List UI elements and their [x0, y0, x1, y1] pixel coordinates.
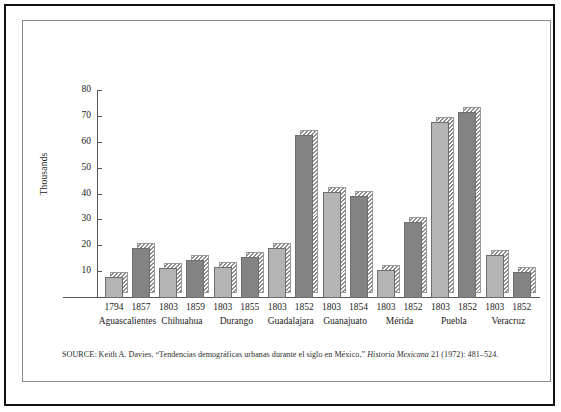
bar-face [350, 196, 368, 298]
bar [132, 248, 150, 298]
bar-face [404, 222, 422, 298]
bars-layer [23, 21, 552, 383]
source-journal: Historia Mexicana [367, 350, 429, 359]
bar [513, 272, 531, 298]
bar-face [513, 272, 531, 298]
bar-face [132, 248, 150, 298]
source-note: SOURCE: Keith A. Davies, “Tendencias dem… [62, 350, 532, 361]
figure-inner-frame: Thousands 1020304050607080 17941857Aguas… [22, 20, 551, 382]
bar-face [105, 277, 123, 298]
bar [159, 268, 177, 298]
bar-face [241, 257, 259, 298]
bar [458, 112, 476, 298]
bar-face [186, 260, 204, 298]
x-year-label: 1852 [505, 302, 539, 312]
bar [323, 192, 341, 298]
bar-face [377, 270, 395, 298]
bar-face [268, 248, 286, 298]
bar-face [486, 255, 504, 298]
bar [350, 196, 368, 298]
x-city-label: Veracruz [458, 316, 559, 326]
bar [295, 135, 313, 298]
bar [268, 248, 286, 298]
bar [377, 270, 395, 298]
bar [186, 260, 204, 298]
bar-face [295, 135, 313, 298]
bar [404, 222, 422, 298]
figure-outer-frame: Thousands 1020304050607080 17941857Aguas… [4, 4, 555, 406]
bar [105, 277, 123, 298]
bar-face [214, 267, 232, 298]
bar [486, 255, 504, 298]
bar-face [458, 112, 476, 298]
bar-face [431, 122, 449, 298]
source-suffix: 21 (1972): 481–524. [429, 350, 498, 359]
source-prefix: SOURCE: Keith A. Davies, “Tendencias dem… [62, 350, 367, 359]
bar-chart: Thousands 1020304050607080 17941857Aguas… [23, 21, 552, 383]
bar [241, 257, 259, 298]
bar-face [159, 268, 177, 298]
bar [431, 122, 449, 298]
bar-face [323, 192, 341, 298]
bar [214, 267, 232, 298]
